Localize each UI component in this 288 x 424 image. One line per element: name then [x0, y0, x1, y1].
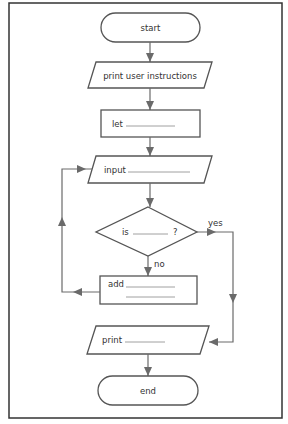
decision-suffix: ?: [173, 227, 178, 237]
arrow-down-icon: [144, 267, 152, 276]
arrow-up-icon: [58, 217, 66, 226]
input-io: input: [88, 156, 212, 183]
yes-label: yes: [208, 218, 223, 228]
flowchart: start print user instructions let input …: [0, 0, 288, 424]
start-label: start: [141, 23, 161, 33]
arrow-down-icon: [146, 147, 154, 156]
let-process: let: [101, 110, 200, 137]
arrow-left-icon: [209, 338, 218, 346]
decision-label: is: [122, 227, 129, 237]
decision-diamond: is ?: [96, 207, 197, 256]
arrow-down-icon: [146, 198, 154, 207]
add-label: add: [108, 279, 124, 289]
instructions-label: print user instructions: [103, 71, 197, 81]
arrow-down-icon: [146, 53, 154, 62]
print-io: print: [87, 326, 209, 354]
arrow-right-icon: [77, 165, 86, 173]
start-terminal: start: [101, 13, 200, 42]
input-label: input: [104, 165, 127, 175]
no-label: no: [154, 259, 165, 269]
arrow-down-icon: [144, 367, 152, 376]
print-label: print: [102, 335, 123, 345]
arrow-left-icon: [73, 288, 82, 296]
arrow-down-icon: [229, 294, 237, 303]
end-label: end: [140, 386, 156, 396]
arrow-right-icon: [207, 228, 216, 236]
arrow-down-icon: [146, 101, 154, 110]
end-terminal: end: [98, 376, 198, 405]
add-process: add: [100, 276, 197, 304]
let-label: let: [112, 119, 124, 129]
print-instructions-io: print user instructions: [88, 62, 212, 88]
